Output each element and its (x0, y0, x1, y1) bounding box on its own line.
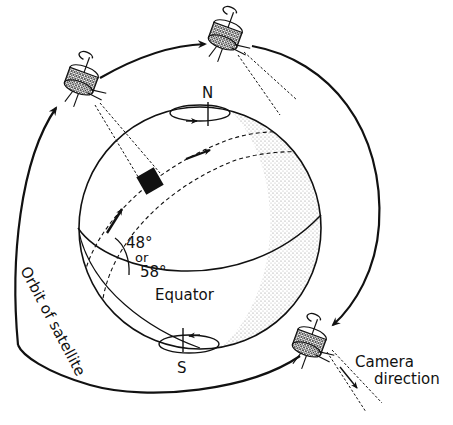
orbit-label: Orbit of satellite (16, 263, 89, 379)
satellite-top (202, 3, 262, 70)
camera-label-line1: Camera (355, 353, 414, 371)
camera-lines-top (238, 52, 297, 115)
north-label: N (202, 84, 213, 102)
equator-label: Equator (155, 286, 215, 304)
satellite-upper-left (58, 48, 118, 115)
south-label: S (177, 359, 187, 377)
camera-label-line2: direction (374, 370, 440, 388)
angle-label-58: 58° (140, 263, 167, 281)
satellite-orbit-diagram: N S Equator 48° or 58° Orbit of satellit… (0, 0, 453, 425)
earth-globe (78, 107, 330, 349)
